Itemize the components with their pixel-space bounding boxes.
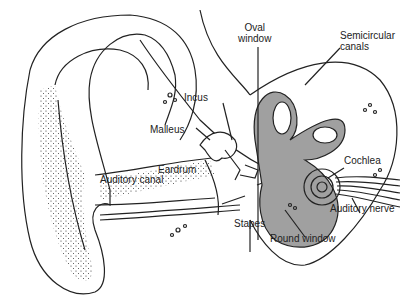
label-semicircular-line2: canals (340, 41, 395, 52)
ear-diagram: Oval window Semicircular canals Incus Ma… (0, 0, 405, 305)
label-oval-window-line1: Oval (238, 22, 271, 33)
label-cochlea: Cochlea (344, 155, 381, 166)
label-oval-window: Oval window (238, 22, 271, 44)
label-semicircular-canals: Semicircular canals (340, 30, 395, 52)
label-round-window: Round window (270, 233, 336, 244)
label-semicircular-line1: Semicircular (340, 30, 395, 41)
label-oval-window-line2: window (238, 33, 271, 44)
label-auditory-nerve: Auditory nerve (330, 203, 394, 214)
label-incus: Incus (184, 92, 208, 103)
label-stapes: Stapes (234, 218, 265, 229)
label-malleus: Malleus (150, 124, 184, 135)
label-eardrum: Eardrum (158, 164, 196, 175)
label-auditory-canal: Auditory canal (100, 174, 163, 185)
